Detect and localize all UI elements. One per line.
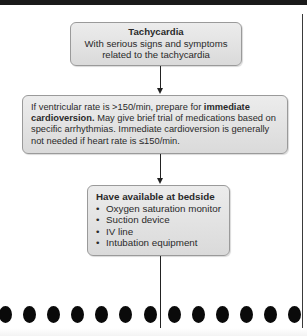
- dot-icon: [71, 306, 84, 323]
- right-margin-rule: [302, 14, 303, 336]
- dot-icon: [216, 306, 229, 323]
- dot-icon: [0, 306, 12, 323]
- dot-icon: [119, 306, 132, 323]
- dot-icon: [47, 306, 60, 323]
- node-tachycardia-line-1: With serious signs and symptoms: [71, 38, 241, 50]
- connector-line-1: [160, 66, 161, 88]
- node-cardioversion: If ventricular rate is >150/min, prepare…: [22, 95, 288, 154]
- node-tachycardia-title: Tachycardia: [71, 26, 241, 38]
- node-bedside: Have available at bedside Oxygen saturat…: [87, 185, 230, 256]
- dot-icon: [192, 306, 205, 323]
- node-tachycardia: Tachycardia With serious signs and sympt…: [70, 22, 242, 66]
- bedside-item: Intubation equipment: [96, 237, 229, 249]
- dot-icon: [288, 306, 301, 323]
- bedside-item: Oxygen saturation monitor: [96, 203, 229, 215]
- dot-icon: [23, 306, 36, 323]
- arrowhead-1-icon: [157, 88, 163, 94]
- bedside-item: Suction device: [96, 214, 229, 226]
- dot-icon: [240, 306, 253, 323]
- connector-line-2: [160, 154, 161, 178]
- dot-icon: [95, 306, 108, 323]
- dot-icon: [264, 306, 277, 323]
- top-border-bar: [0, 0, 307, 5]
- dot-icon: [144, 306, 157, 323]
- node-bedside-title: Have available at bedside: [96, 191, 229, 203]
- bottom-edge: [0, 328, 307, 336]
- arrowhead-2-icon: [157, 178, 163, 184]
- node-tachycardia-line-2: related to the tachycardia: [71, 49, 241, 61]
- bedside-item: IV line: [96, 226, 229, 238]
- node-cardioversion-text-1: If ventricular rate is >150/min, prepare…: [31, 102, 204, 112]
- page-break-dots: [0, 305, 307, 325]
- dot-icon: [168, 306, 181, 323]
- bedside-equipment-list: Oxygen saturation monitor Suction device…: [96, 203, 229, 249]
